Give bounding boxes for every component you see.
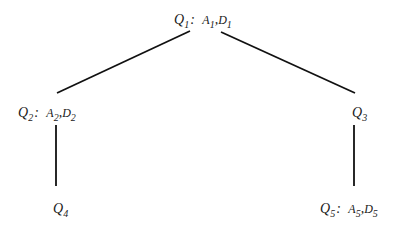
node-q2-label: Q — [18, 105, 28, 120]
node-q4: Q4 — [53, 201, 68, 217]
edge-q1-q3 — [221, 32, 355, 93]
node-q4-label: Q — [53, 201, 63, 216]
node-q1: Q1: A1,D1 — [174, 12, 232, 28]
node-q2: Q2: A2,D2 — [18, 105, 76, 121]
node-q5-label: Q — [320, 201, 330, 216]
node-q3: Q3 — [352, 105, 367, 121]
node-q3-label: Q — [352, 105, 362, 120]
node-q1-label: Q — [174, 12, 184, 27]
edge-q1-q2 — [57, 31, 190, 93]
tree-diagram: Q1: A1,D1 Q2: A2,D2 Q3 Q4 Q5: A5,D5 — [0, 0, 407, 231]
node-q5: Q5: A5,D5 — [320, 201, 378, 217]
